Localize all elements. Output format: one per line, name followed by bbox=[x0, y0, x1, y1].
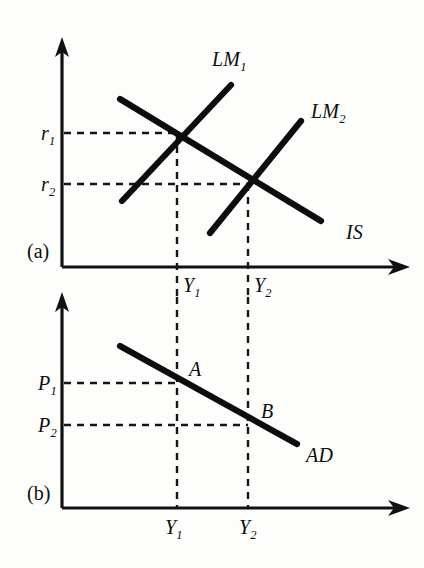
lm2-label: LM2 bbox=[310, 100, 346, 126]
panel-a-r1-tick-label: r1 bbox=[41, 122, 55, 148]
yb2-sub: 2 bbox=[250, 528, 256, 542]
panel-a-r2-tick-label: r2 bbox=[41, 173, 55, 199]
r2-sub: 2 bbox=[49, 185, 55, 199]
ya1-sub: 1 bbox=[194, 286, 200, 300]
panel-b-y2-tick-label: Y2 bbox=[239, 516, 257, 542]
panel-b-p2-tick-label: P2 bbox=[37, 414, 57, 440]
panel-a-y1-tick-label: Y1 bbox=[183, 274, 201, 300]
panel-a-y2-tick-label: Y2 bbox=[254, 274, 272, 300]
ad-curve bbox=[120, 346, 297, 444]
lm2-curve bbox=[210, 121, 301, 233]
panel-b-label: (b) bbox=[27, 482, 50, 505]
p2-base: P bbox=[37, 414, 50, 436]
p1-sub: 1 bbox=[50, 384, 56, 398]
lm1-label-base: LM bbox=[211, 48, 241, 70]
is-label: IS bbox=[345, 221, 363, 243]
point-a-label: A bbox=[187, 358, 202, 380]
ad-label: AD bbox=[304, 444, 333, 466]
panel-b: AD A B P1 P2 Y1 Y2 (b) bbox=[27, 292, 410, 542]
is-curve bbox=[120, 99, 321, 221]
p2-sub: 2 bbox=[50, 426, 56, 440]
lm2-label-base: LM bbox=[310, 100, 340, 122]
yb1-sub: 1 bbox=[176, 528, 182, 542]
panel-b-y1-tick-label: Y1 bbox=[165, 516, 183, 542]
panel-b-p1-tick-label: P1 bbox=[37, 372, 57, 398]
lm2-label-sub: 2 bbox=[339, 112, 345, 126]
ya2-sub: 2 bbox=[265, 286, 271, 300]
panel-a-label: (a) bbox=[27, 240, 49, 263]
panel-a: LM1 LM2 IS r1 r2 Y1 Y2 (a) bbox=[27, 37, 410, 300]
figure-container: LM1 LM2 IS r1 r2 Y1 Y2 (a) bbox=[0, 0, 424, 568]
p1-base: P bbox=[37, 372, 50, 394]
r1-sub: 1 bbox=[49, 134, 55, 148]
r1-base: r bbox=[41, 122, 49, 144]
point-b-label: B bbox=[261, 400, 273, 422]
lm1-label: LM1 bbox=[211, 48, 247, 74]
r2-base: r bbox=[41, 173, 49, 195]
lm1-label-sub: 1 bbox=[240, 60, 246, 74]
islm-ad-diagram: LM1 LM2 IS r1 r2 Y1 Y2 (a) bbox=[0, 0, 424, 568]
lm1-curve bbox=[122, 85, 231, 201]
